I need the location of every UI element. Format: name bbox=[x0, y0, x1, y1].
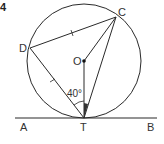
label-angle-40: 40° bbox=[67, 88, 82, 99]
label-a: A bbox=[20, 121, 28, 133]
label-c: C bbox=[118, 6, 126, 18]
chord-ct bbox=[84, 17, 116, 118]
label-t: T bbox=[80, 121, 87, 133]
angle-arc-40 bbox=[74, 101, 84, 105]
radius-oc bbox=[84, 17, 116, 61]
label-b: B bbox=[147, 121, 154, 133]
label-d: D bbox=[19, 42, 27, 54]
label-o: O bbox=[73, 55, 82, 67]
circle-theorem-diagram: 4 C D O 40° A T B bbox=[0, 0, 164, 144]
question-number: 4 bbox=[0, 1, 7, 13]
shaded-angle bbox=[84, 103, 88, 118]
center-point-o bbox=[82, 59, 86, 63]
tick-mark-dt bbox=[50, 79, 55, 82]
